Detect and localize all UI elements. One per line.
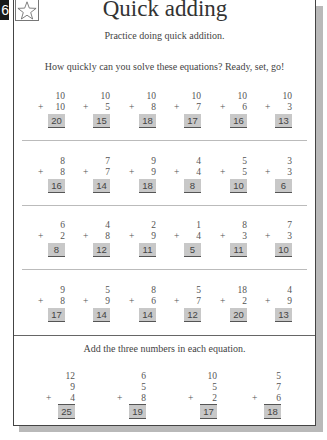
addend-bottom: +2 — [32, 231, 72, 242]
addend-top: 10 — [214, 91, 254, 102]
three-number-problem: 105+217 — [184, 371, 224, 419]
addition-problem: 4+812 — [77, 220, 117, 257]
answer-box[interactable]: 13 — [275, 308, 292, 322]
plus-sign: + — [117, 393, 122, 404]
addition-problem: 10+717 — [168, 91, 208, 128]
three-number-problem: 57+618 — [248, 371, 288, 419]
plus-sign: + — [129, 231, 134, 242]
addend-top: 9 — [123, 156, 163, 167]
plus-sign: + — [83, 296, 88, 307]
addend-2: 7 — [248, 382, 288, 393]
addition-problem: 7+714 — [77, 156, 117, 193]
answer-box[interactable]: 17 — [184, 114, 201, 128]
three-number-problem: 129+425 — [42, 371, 82, 419]
plus-sign: + — [174, 296, 179, 307]
answer-box[interactable]: 14 — [139, 308, 156, 322]
addend-bottom: +8 — [77, 231, 117, 242]
plus-sign: + — [38, 167, 43, 178]
answer-box[interactable]: 5 — [184, 243, 201, 257]
addend-3: +6 — [248, 393, 288, 404]
page-title: Quick adding — [40, 0, 290, 22]
addend-top: 10 — [168, 91, 208, 102]
addend-bottom: +5 — [77, 102, 117, 113]
answer-box[interactable]: 12 — [184, 308, 201, 322]
addition-problem: 5+712 — [168, 285, 208, 322]
addend-top: 4 — [259, 285, 299, 296]
answer-box[interactable]: 17 — [48, 308, 65, 322]
answer-box[interactable]: 16 — [48, 179, 65, 193]
answer-box[interactable]: 14 — [93, 308, 110, 322]
answer-box[interactable]: 6 — [275, 179, 292, 193]
addend-bottom: +3 — [214, 231, 254, 242]
star-box — [15, 0, 39, 21]
three-number-problem: 65+819 — [113, 371, 153, 419]
addend-top: 10 — [32, 91, 72, 102]
addend-bottom: +3 — [259, 102, 299, 113]
answer-box[interactable]: 11 — [139, 243, 156, 257]
answer-box[interactable]: 20 — [230, 308, 247, 322]
addend-2: 5 — [184, 382, 224, 393]
addition-problem: 3+36 — [259, 156, 299, 193]
addend-top: 10 — [77, 91, 117, 102]
addition-problem: 7+310 — [259, 220, 299, 257]
plus-sign: + — [83, 102, 88, 113]
plus-sign: + — [188, 393, 193, 404]
addend-1: 12 — [42, 371, 82, 382]
answer-box[interactable]: 19 — [129, 404, 146, 419]
answer-box[interactable]: 12 — [93, 243, 110, 257]
addition-problem: 10+515 — [77, 91, 117, 128]
answer-box[interactable]: 10 — [230, 179, 247, 193]
plus-sign: + — [265, 102, 270, 113]
addend-bottom: +5 — [214, 167, 254, 178]
answer-box[interactable]: 17 — [200, 404, 217, 419]
plus-sign: + — [265, 296, 270, 307]
star-outline-icon — [17, 1, 37, 20]
addend-bottom: +9 — [259, 296, 299, 307]
addend-top: 9 — [32, 285, 72, 296]
plus-sign: + — [38, 296, 43, 307]
addend-3: +4 — [42, 393, 82, 404]
addend-3: +2 — [184, 393, 224, 404]
addend-top: 2 — [123, 220, 163, 231]
plus-sign: + — [46, 393, 51, 404]
plus-sign: + — [38, 102, 43, 113]
addend-bottom: +3 — [259, 167, 299, 178]
instruction-three-numbers: Add the three numbers in each equation. — [13, 343, 316, 354]
plus-sign: + — [129, 102, 134, 113]
answer-box[interactable]: 18 — [139, 114, 156, 128]
plus-sign: + — [220, 296, 225, 307]
plus-sign: + — [129, 296, 134, 307]
plus-sign: + — [174, 167, 179, 178]
addend-top: 7 — [77, 156, 117, 167]
addition-problem: 9+817 — [32, 285, 72, 322]
addend-top: 5 — [77, 285, 117, 296]
answer-box[interactable]: 15 — [93, 114, 110, 128]
plus-sign: + — [265, 167, 270, 178]
plus-sign: + — [265, 231, 270, 242]
row-divider — [22, 140, 307, 141]
answer-box[interactable]: 25 — [58, 404, 75, 419]
answer-box[interactable]: 8 — [48, 243, 65, 257]
addition-problem: 10+818 — [123, 91, 163, 128]
answer-box[interactable]: 11 — [230, 243, 247, 257]
answer-box[interactable]: 10 — [275, 243, 292, 257]
answer-box[interactable]: 16 — [230, 114, 247, 128]
addend-bottom: +2 — [214, 296, 254, 307]
plus-sign: + — [220, 167, 225, 178]
answer-box[interactable]: 20 — [48, 114, 65, 128]
addend-1: 6 — [113, 371, 153, 382]
addend-2: 9 — [42, 382, 82, 393]
addition-problem: 9+918 — [123, 156, 163, 193]
plus-sign: + — [83, 231, 88, 242]
answer-box[interactable]: 13 — [275, 114, 292, 128]
addition-problem: 5+510 — [214, 156, 254, 193]
addend-bottom: +9 — [77, 296, 117, 307]
answer-box[interactable]: 18 — [139, 179, 156, 193]
page-subtitle: Practice doing quick addition. — [13, 30, 316, 41]
answer-box[interactable]: 14 — [93, 179, 110, 193]
answer-box[interactable]: 8 — [184, 179, 201, 193]
addition-problem: 10+313 — [259, 91, 299, 128]
addition-problem: 8+816 — [32, 156, 72, 193]
addend-1: 5 — [248, 371, 288, 382]
answer-box[interactable]: 18 — [264, 404, 281, 419]
